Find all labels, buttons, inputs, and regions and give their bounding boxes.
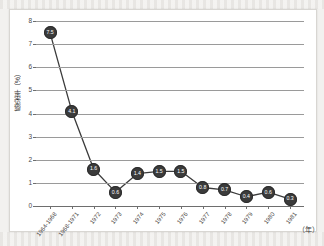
data-point: 1.4 (131, 167, 144, 180)
x-tick-mark (159, 206, 160, 209)
y-tick-mark (33, 137, 36, 138)
x-axis-title: （年） (298, 226, 319, 233)
plot-area: 0123456787.54.11.60.61.41.51.50.80.70.40… (36, 21, 304, 206)
x-tick-mark (115, 206, 116, 209)
data-point: 0.6 (109, 186, 122, 199)
scan-artifact-bottom (0, 232, 324, 246)
y-tick-label: 4 (28, 110, 32, 117)
x-tick-label: 1977 (197, 211, 210, 225)
y-axis-title: 感染率（%） (14, 70, 24, 111)
y-tick-label: 1 (28, 180, 32, 187)
y-tick-label: 0 (28, 203, 32, 210)
x-tick-label: 1980 (263, 211, 276, 225)
x-tick-label: 1976 (176, 211, 189, 225)
data-point: 0.6 (262, 186, 275, 199)
x-tick-mark (50, 206, 51, 209)
scanned-page: 感染率（%） 0123456787.54.11.60.61.41.51.50.8… (0, 0, 324, 246)
chart-card: 感染率（%） 0123456787.54.11.60.61.41.51.50.8… (9, 9, 317, 232)
data-point: 7.5 (44, 26, 57, 39)
y-tick-label: 7 (28, 41, 32, 48)
x-tick-label: 1978 (219, 211, 232, 225)
data-point: 1.6 (87, 163, 100, 176)
x-tick-label: 1975 (154, 211, 167, 225)
x-tick-label: 1974 (132, 211, 145, 225)
x-tick-mark (268, 206, 269, 209)
y-tick-label: 6 (28, 64, 32, 71)
y-tick-mark (33, 90, 36, 91)
gridline (36, 90, 304, 91)
x-axis: 1964-19681968-19711972197319741975197619… (36, 206, 304, 207)
x-tick-mark (290, 206, 291, 209)
y-tick-mark (33, 44, 36, 45)
x-tick-mark (137, 206, 138, 209)
x-tick-label: 1973 (110, 211, 123, 225)
x-tick-label: 1979 (241, 211, 254, 225)
x-tick-mark (72, 206, 73, 209)
x-tick-mark (181, 206, 182, 209)
x-tick-mark (94, 206, 95, 209)
y-tick-label: 2 (28, 157, 32, 164)
scan-artifact-top (0, 0, 324, 9)
y-tick-mark (33, 114, 36, 115)
gridline (36, 44, 304, 45)
x-tick-mark (225, 206, 226, 209)
x-tick-mark (203, 206, 204, 209)
data-point: 4.1 (65, 105, 78, 118)
x-tick-mark (246, 206, 247, 209)
y-tick-label: 5 (28, 87, 32, 94)
y-tick-mark (33, 67, 36, 68)
gridline (36, 137, 304, 138)
y-tick-mark (33, 183, 36, 184)
y-tick-mark (33, 160, 36, 161)
x-tick-label: 1981 (285, 211, 298, 225)
y-tick-mark (33, 21, 36, 22)
data-point: 1.5 (153, 165, 166, 178)
data-point: 0.3 (284, 193, 297, 206)
gridline (36, 160, 304, 161)
x-tick-label: 1972 (88, 211, 101, 225)
gridline (36, 183, 304, 184)
y-tick-label: 8 (28, 18, 32, 25)
gridline (36, 67, 304, 68)
y-tick-label: 3 (28, 133, 32, 140)
gridline (36, 21, 304, 22)
